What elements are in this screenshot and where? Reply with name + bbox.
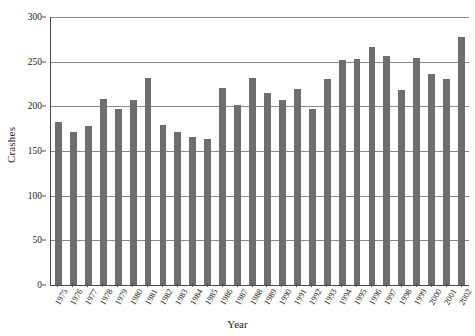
bar — [458, 37, 465, 285]
x-tick-label: 1993 — [322, 287, 339, 307]
bar — [369, 47, 376, 285]
bar — [383, 56, 390, 285]
x-tick-label: 1991 — [292, 287, 309, 307]
x-tick-label: 2001 — [441, 287, 458, 307]
plot-area — [50, 17, 469, 286]
bar — [309, 109, 316, 285]
bar — [204, 139, 211, 285]
bar — [100, 99, 107, 285]
y-tick-mark — [42, 151, 46, 152]
x-tick-mark — [177, 283, 178, 287]
x-tick-label: 2000 — [426, 287, 443, 307]
x-tick-mark — [57, 283, 58, 287]
bar — [279, 100, 286, 285]
bar — [264, 93, 271, 285]
y-tick-label: 300 — [28, 12, 42, 22]
bar — [85, 126, 92, 285]
y-tick-label: 250 — [28, 57, 42, 67]
x-tick-mark — [162, 283, 163, 287]
x-tick-label: 1976 — [68, 287, 85, 307]
x-tick-mark — [446, 283, 447, 287]
x-tick-label: 1984 — [187, 287, 204, 307]
x-tick-mark — [117, 283, 118, 287]
y-tick-mark — [42, 17, 46, 18]
x-tick-label: 1996 — [366, 287, 383, 307]
bar — [115, 109, 122, 285]
x-tick-label: 1975 — [53, 287, 70, 307]
x-tick-mark — [102, 283, 103, 287]
bar — [443, 79, 450, 285]
bar — [294, 89, 301, 285]
x-tick-mark — [87, 283, 88, 287]
x-tick-label: 1985 — [202, 287, 219, 307]
y-axis-title: Crashes — [2, 0, 20, 290]
x-tick-mark — [341, 283, 342, 287]
y-tick-mark — [42, 106, 46, 107]
x-tick-mark — [296, 283, 297, 287]
bar — [339, 60, 346, 285]
bar — [70, 132, 77, 285]
x-tick-mark — [192, 283, 193, 287]
x-tick-label: 1986 — [217, 287, 234, 307]
x-tick-mark — [416, 283, 417, 287]
x-tick-label: 1988 — [247, 287, 264, 307]
x-tick-label: 1980 — [128, 287, 145, 307]
bar — [428, 74, 435, 285]
x-tick-label: 1989 — [262, 287, 279, 307]
x-tick-mark — [461, 283, 462, 287]
x-tick-mark — [401, 283, 402, 287]
y-tick-label: 50 — [33, 235, 43, 245]
x-tick-mark — [222, 283, 223, 287]
x-tick-mark — [237, 283, 238, 287]
x-tick-label: 1990 — [277, 287, 294, 307]
x-tick-mark — [132, 283, 133, 287]
y-tick-mark — [42, 285, 46, 286]
bar — [130, 100, 137, 285]
bar — [413, 58, 420, 285]
x-tick-mark — [147, 283, 148, 287]
y-axis-title-label: Crashes — [5, 127, 17, 163]
bar — [55, 122, 62, 285]
x-tick-label: 1977 — [83, 287, 100, 307]
y-tick-mark — [42, 195, 46, 196]
bar-chart-figure: Crashes 050100150200250300 1975197619771… — [0, 0, 475, 336]
bar — [145, 78, 152, 285]
x-tick-mark — [386, 283, 387, 287]
x-tick-label: 1982 — [157, 287, 174, 307]
x-axis-title: Year — [0, 318, 475, 330]
bar — [219, 88, 226, 285]
x-tick-label: 1987 — [232, 287, 249, 307]
x-tick-label: 1979 — [113, 287, 130, 307]
x-tick-mark — [311, 283, 312, 287]
x-tick-label: 1992 — [307, 287, 324, 307]
bar — [160, 125, 167, 285]
x-tick-mark — [266, 283, 267, 287]
x-tick-mark — [252, 283, 253, 287]
x-tick-label: 1997 — [381, 287, 398, 307]
bar — [324, 79, 331, 285]
bar — [354, 59, 361, 285]
x-tick-label: 1998 — [396, 287, 413, 307]
x-tick-mark — [207, 283, 208, 287]
x-tick-mark — [72, 283, 73, 287]
x-tick-mark — [356, 283, 357, 287]
y-tick-mark — [42, 61, 46, 62]
x-tick-mark — [371, 283, 372, 287]
x-tick-label: 1978 — [98, 287, 115, 307]
bar — [398, 90, 405, 285]
x-axis-tick-labels: 1975197619771978197919801981198219831984… — [50, 287, 468, 319]
y-tick-label: 150 — [28, 146, 42, 156]
x-tick-label: 1994 — [337, 287, 354, 307]
bar — [234, 105, 241, 285]
bar — [249, 78, 256, 285]
y-axis-tick-labels: 050100150200250300 — [20, 17, 46, 285]
x-tick-mark — [326, 283, 327, 287]
x-tick-label: 2002 — [456, 287, 473, 307]
bar — [189, 137, 196, 285]
x-tick-label: 1983 — [172, 287, 189, 307]
y-tick-label: 100 — [28, 191, 42, 201]
bar — [174, 132, 181, 285]
x-tick-mark — [431, 283, 432, 287]
x-tick-label: 1999 — [411, 287, 428, 307]
y-tick-mark — [42, 240, 46, 241]
